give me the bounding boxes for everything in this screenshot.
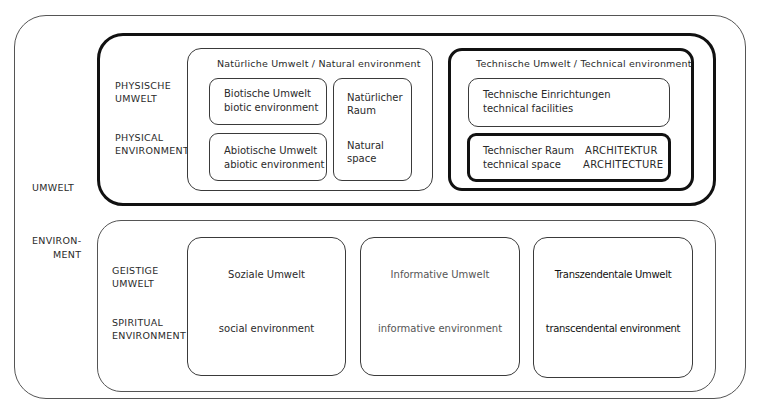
physische-umwelt-label-1: PHYSISCHE xyxy=(115,79,171,92)
natural-space-en-2: space xyxy=(347,152,376,165)
tech-space-en: technical space xyxy=(483,158,561,171)
transcendental-environment-box: Transzendentale Umwelt transcendental en… xyxy=(533,237,693,378)
informative-de: Informative Umwelt xyxy=(361,268,519,281)
natural-space-en-1: Natural xyxy=(347,139,384,152)
transcendental-en: transcendental environment xyxy=(534,322,692,335)
physical-environment-label-1: PHYSICAL xyxy=(115,131,163,144)
geistige-umwelt-label-1: GEISTIGE xyxy=(112,264,159,277)
facilities-en: technical facilities xyxy=(483,102,573,115)
environment-label-line2: MENT xyxy=(53,248,81,261)
technical-space-architecture-box: Technischer Raum technical space ARCHITE… xyxy=(467,133,671,182)
natural-space-de-2: Raum xyxy=(347,104,376,117)
architecture-label: ARCHITECTURE xyxy=(583,158,663,171)
social-de: Soziale Umwelt xyxy=(188,268,345,281)
tech-space-de: Technischer Raum xyxy=(483,144,574,157)
natural-space-de-1: Natürlicher xyxy=(347,91,403,104)
abiotic-en: abiotic environment xyxy=(224,158,324,171)
environment-label-line1: ENVIRON- xyxy=(32,234,81,247)
umwelt-label: UMWELT xyxy=(32,181,74,194)
architektur-label: ARCHITEKTUR xyxy=(585,144,658,157)
biotic-en: biotic environment xyxy=(224,101,318,114)
spiritual-environment-label-1: SPIRITUAL xyxy=(112,316,163,329)
transcendental-de: Transzendentale Umwelt xyxy=(534,268,692,281)
biotic-environment-box: Biotische Umwelt biotic environment xyxy=(209,78,327,125)
geistige-umwelt-label-2: UMWELT xyxy=(112,277,154,290)
abiotic-environment-box: Abiotische Umwelt abiotic environment xyxy=(209,133,327,181)
natural-space-box: Natürlicher Raum Natural space xyxy=(333,78,412,181)
social-environment-box: Soziale Umwelt social environment xyxy=(187,237,346,376)
biotic-de: Biotische Umwelt xyxy=(224,87,311,100)
informative-environment-box: Informative Umwelt informative environme… xyxy=(360,237,520,376)
technical-environment-title: Technische Umwelt / Technical environmen… xyxy=(476,57,692,70)
facilities-de: Technische Einrichtungen xyxy=(483,88,611,101)
technical-facilities-box: Technische Einrichtungen technical facil… xyxy=(468,78,670,127)
physische-umwelt-label-2: UMWELT xyxy=(115,92,157,105)
informative-en: informative environment xyxy=(361,322,519,335)
spiritual-environment-label-2: ENVIRONMENT xyxy=(112,329,186,342)
physical-environment-label-2: ENVIRONMENT xyxy=(115,144,189,157)
natural-environment-title: Natürliche Umwelt / Natural environment xyxy=(217,57,421,70)
abiotic-de: Abiotische Umwelt xyxy=(224,144,317,157)
social-en: social environment xyxy=(188,322,345,335)
